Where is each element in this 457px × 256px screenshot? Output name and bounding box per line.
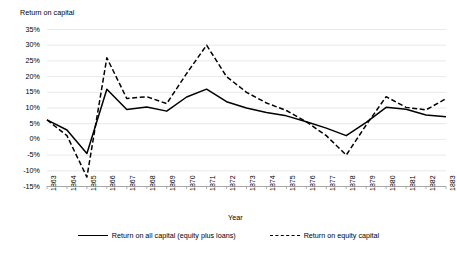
legend-swatch-dashed bbox=[270, 235, 300, 236]
legend-item: Return on all capital (equity plus loans… bbox=[78, 231, 236, 240]
legend-swatch-solid bbox=[78, 235, 108, 236]
legend-label: Return on equity capital bbox=[304, 231, 380, 240]
series-line-equity-capital bbox=[47, 45, 446, 177]
series-line-all-capital bbox=[47, 89, 446, 153]
chart-legend: Return on all capital (equity plus loans… bbox=[0, 231, 457, 240]
plot-area bbox=[0, 0, 457, 256]
axis-lines bbox=[47, 187, 446, 190]
data-series bbox=[47, 45, 446, 177]
legend-label: Return on all capital (equity plus loans… bbox=[112, 231, 236, 240]
chart-container: Return on capital Year 35%30%25%20%15%10… bbox=[0, 0, 457, 256]
legend-item: Return on equity capital bbox=[270, 231, 380, 240]
